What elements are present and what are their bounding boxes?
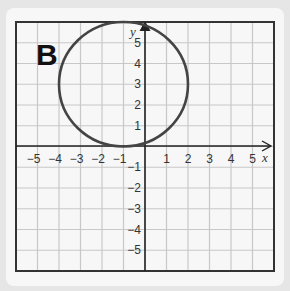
panel-label: B (36, 38, 58, 71)
y-tick-label: 1 (134, 119, 141, 133)
x-tick-label: −3 (70, 152, 84, 166)
x-tick-label: 2 (185, 152, 192, 166)
coordinate-plane: −5−4−3−2−11234554321−1−2−3−4−5 x y B (0, 0, 290, 291)
y-tick-label: −3 (127, 202, 141, 216)
x-tick-label: −2 (91, 152, 105, 166)
x-tick-label: −5 (27, 152, 41, 166)
x-tick-label: 3 (206, 152, 213, 166)
x-tick-label: −4 (48, 152, 62, 166)
x-tick-label: 1 (163, 152, 170, 166)
y-tick-label: 4 (134, 57, 141, 71)
x-tick-label: 4 (228, 152, 235, 166)
y-tick-label: 3 (134, 77, 141, 91)
x-axis-label: x (261, 150, 268, 165)
x-tick-label: −1 (113, 152, 127, 166)
y-tick-label: −5 (127, 243, 141, 257)
y-tick-label: −1 (127, 160, 141, 174)
y-tick-label: −4 (127, 223, 141, 237)
x-tick-label: 5 (249, 152, 256, 166)
y-axis-label: y (128, 24, 136, 39)
y-tick-label: −2 (127, 181, 141, 195)
y-tick-label: 2 (134, 98, 141, 112)
